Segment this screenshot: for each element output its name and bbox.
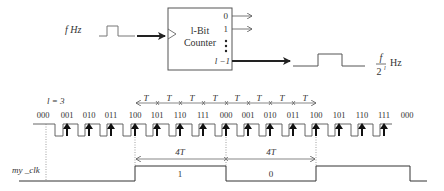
counter-state-labels: 000 001 010 011 100 101 110 111 000 001 …	[37, 110, 414, 120]
output-bit-1-label: 1	[224, 24, 229, 34]
output-frequency-denominator: 2	[377, 66, 382, 77]
counter-box-title: l-Bit	[191, 25, 210, 36]
svg-text:T: T	[256, 93, 262, 103]
svg-text:T: T	[143, 93, 149, 103]
output-bit-0-label: 0	[224, 11, 229, 21]
my-clk-waveform	[19, 166, 427, 181]
output-frequency-exponent: l	[384, 65, 386, 71]
svg-text:111: 111	[378, 110, 390, 120]
svg-text:000: 000	[401, 110, 414, 120]
output-pulse-icon	[293, 54, 365, 66]
svg-text:T: T	[189, 93, 195, 103]
svg-text:001: 001	[61, 110, 74, 120]
svg-text:000: 000	[37, 110, 50, 120]
svg-text:000: 000	[220, 110, 233, 120]
svg-text:T: T	[212, 93, 218, 103]
svg-text:100: 100	[310, 110, 323, 120]
svg-text:T: T	[234, 93, 240, 103]
svg-text:T: T	[302, 93, 308, 103]
high-level-label: 1	[178, 169, 183, 179]
counter-block: f Hz l-Bit Counter 0 1 l −1 f 2 l Hz	[65, 8, 402, 77]
output-frequency-unit: Hz	[390, 57, 402, 68]
input-frequency-label: f Hz	[65, 24, 82, 35]
timing-diagram: l = 3 T T T T T T T T	[12, 93, 427, 181]
counter-box-subtitle: Counter	[184, 37, 217, 48]
svg-text:110: 110	[174, 110, 186, 120]
output-msb-label: l −1	[215, 56, 230, 66]
low-duration-label: 4T	[266, 147, 277, 157]
svg-text:011: 011	[105, 110, 117, 120]
counter-timing-diagram: f Hz l-Bit Counter 0 1 l −1 f 2 l Hz l =…	[0, 0, 444, 191]
svg-text:T: T	[166, 93, 172, 103]
svg-text:101: 101	[151, 110, 164, 120]
bit-width-label: l = 3	[47, 96, 65, 106]
half-period-dimensions: 4T 4T	[136, 147, 315, 161]
svg-text:111: 111	[197, 110, 209, 120]
output-frequency-numerator: f	[380, 52, 384, 63]
period-markers: T T T T T T T T	[136, 93, 316, 105]
signal-name-label: my _clk	[12, 165, 41, 175]
svg-text:010: 010	[83, 110, 96, 120]
svg-text:100: 100	[129, 110, 142, 120]
svg-text:011: 011	[287, 110, 299, 120]
input-pulse-icon	[99, 26, 135, 36]
svg-text:T: T	[279, 93, 285, 103]
rising-edge-arrows	[63, 123, 388, 136]
svg-text:101: 101	[333, 110, 346, 120]
svg-text:010: 010	[264, 110, 277, 120]
svg-text:110: 110	[356, 110, 368, 120]
high-duration-label: 4T	[175, 147, 186, 157]
svg-text:001: 001	[242, 110, 255, 120]
ellipsis-dots-icon	[225, 40, 227, 52]
low-level-label: 0	[269, 169, 274, 179]
